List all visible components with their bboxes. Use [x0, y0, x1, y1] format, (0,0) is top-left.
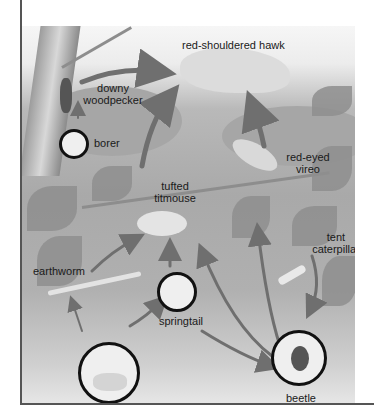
- soil-bacteria-fungi-icon: [93, 373, 127, 391]
- label-earthworm: earthworm: [33, 265, 85, 277]
- beetle-icon: [291, 346, 309, 371]
- beetle-circle: [271, 330, 327, 386]
- label-line: woodpecker: [78, 94, 148, 106]
- food-web-scene: red-shouldered hawk downy woodpecker bor…: [22, 26, 355, 403]
- label-line: red-eyed: [278, 151, 338, 163]
- label-tent-caterpillar: tent caterpillar: [306, 231, 355, 255]
- label-downy-woodpecker: downy woodpecker: [78, 82, 148, 106]
- frame-bottom-border: [20, 403, 374, 405]
- label-line: vireo: [278, 163, 338, 175]
- label-line: tent: [306, 231, 355, 243]
- label-tufted-titmouse: tufted titmouse: [150, 180, 200, 204]
- springtail-circle: [157, 272, 197, 312]
- label-red-eyed-vireo: red-eyed vireo: [278, 151, 338, 175]
- label-line: downy: [78, 82, 148, 94]
- label-borer: borer: [94, 137, 120, 149]
- label-beetle: beetle: [286, 392, 316, 403]
- label-line: caterpillar: [306, 243, 355, 255]
- label-red-shouldered-hawk: red-shouldered hawk: [182, 39, 285, 51]
- label-line: tufted: [150, 180, 200, 192]
- label-springtail: springtail: [159, 315, 203, 327]
- label-line: titmouse: [150, 192, 200, 204]
- borer-circle: [59, 129, 89, 159]
- soil-circle: [78, 342, 140, 403]
